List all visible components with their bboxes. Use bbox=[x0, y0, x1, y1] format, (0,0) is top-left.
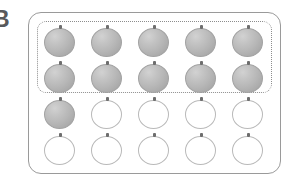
empty-ball-icon[interactable] bbox=[91, 100, 122, 129]
stem-icon bbox=[153, 97, 156, 101]
stem-icon bbox=[247, 133, 250, 137]
stem-icon bbox=[106, 97, 109, 101]
empty-ball-icon[interactable] bbox=[138, 136, 169, 165]
empty-ball-icon[interactable] bbox=[232, 136, 263, 165]
empty-ball-icon[interactable] bbox=[44, 136, 75, 165]
ball-cell[interactable] bbox=[43, 133, 77, 167]
stem-icon bbox=[106, 25, 109, 29]
ball-cell[interactable] bbox=[137, 61, 171, 95]
empty-ball-icon[interactable] bbox=[185, 100, 216, 129]
filled-ball-icon[interactable] bbox=[232, 64, 263, 93]
stem-icon bbox=[59, 97, 62, 101]
ball-cell[interactable] bbox=[137, 133, 171, 167]
filled-ball-icon[interactable] bbox=[91, 64, 122, 93]
filled-ball-icon[interactable] bbox=[44, 64, 75, 93]
stem-icon bbox=[200, 25, 203, 29]
ball-cell[interactable] bbox=[43, 25, 77, 59]
ball-cell[interactable] bbox=[137, 25, 171, 59]
ball-cell[interactable] bbox=[231, 61, 265, 95]
stem-icon bbox=[200, 97, 203, 101]
ball-cell[interactable] bbox=[231, 97, 265, 131]
empty-ball-icon[interactable] bbox=[185, 136, 216, 165]
filled-ball-icon[interactable] bbox=[185, 64, 216, 93]
stem-icon bbox=[106, 133, 109, 137]
ball-cell[interactable] bbox=[43, 97, 77, 131]
ball-cell[interactable] bbox=[184, 97, 218, 131]
figure-canvas: B bbox=[0, 0, 299, 189]
ball-row bbox=[43, 25, 267, 61]
ball-cell[interactable] bbox=[137, 97, 171, 131]
stem-icon bbox=[59, 61, 62, 65]
ball-cell[interactable] bbox=[90, 25, 124, 59]
figure-label: B bbox=[0, 6, 11, 32]
ball-cell[interactable] bbox=[90, 133, 124, 167]
stem-icon bbox=[200, 61, 203, 65]
filled-ball-icon[interactable] bbox=[44, 100, 75, 129]
stem-icon bbox=[153, 61, 156, 65]
filled-ball-icon[interactable] bbox=[138, 64, 169, 93]
stem-icon bbox=[247, 97, 250, 101]
ball-row bbox=[43, 61, 267, 97]
filled-ball-icon[interactable] bbox=[44, 28, 75, 57]
filled-ball-icon[interactable] bbox=[91, 28, 122, 57]
filled-ball-icon[interactable] bbox=[138, 28, 169, 57]
stem-icon bbox=[106, 61, 109, 65]
ball-row bbox=[43, 133, 267, 169]
ball-cell[interactable] bbox=[184, 61, 218, 95]
filled-ball-icon[interactable] bbox=[232, 28, 263, 57]
empty-ball-icon[interactable] bbox=[138, 100, 169, 129]
ball-cell[interactable] bbox=[43, 61, 77, 95]
stem-icon bbox=[153, 25, 156, 29]
ball-cell[interactable] bbox=[184, 25, 218, 59]
stem-icon bbox=[59, 133, 62, 137]
ball-row bbox=[43, 97, 267, 133]
empty-ball-icon[interactable] bbox=[91, 136, 122, 165]
stem-icon bbox=[200, 133, 203, 137]
stem-icon bbox=[247, 61, 250, 65]
ball-cell[interactable] bbox=[90, 61, 124, 95]
stem-icon bbox=[153, 133, 156, 137]
empty-ball-icon[interactable] bbox=[232, 100, 263, 129]
ball-grid bbox=[43, 25, 267, 169]
ball-cell[interactable] bbox=[231, 133, 265, 167]
stem-icon bbox=[247, 25, 250, 29]
ball-cell[interactable] bbox=[184, 133, 218, 167]
filled-ball-icon[interactable] bbox=[185, 28, 216, 57]
stem-icon bbox=[59, 25, 62, 29]
ball-cell[interactable] bbox=[90, 97, 124, 131]
ball-cell[interactable] bbox=[231, 25, 265, 59]
